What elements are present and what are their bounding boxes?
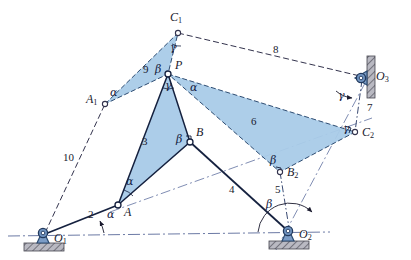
node-label-B: B <box>196 126 203 138</box>
node-label-A1: A1 <box>86 93 97 107</box>
link-8-line <box>178 33 360 76</box>
joint-A[interactable] <box>115 202 121 208</box>
node-label-A: A <box>124 206 131 218</box>
angle-beta-at-O2: β <box>266 199 272 210</box>
node-label-B2: B2 <box>287 166 298 180</box>
link-label-10: 10 <box>63 152 74 163</box>
angle-gamma-at-C1: γ <box>170 42 177 53</box>
joint-A1[interactable] <box>102 101 107 106</box>
wall-pivot-O3[interactable] <box>355 56 375 98</box>
link-label-2: 2 <box>88 209 94 220</box>
link-label-7: 7 <box>367 102 373 113</box>
link-label-9: 9 <box>143 64 149 75</box>
node-label-P: P <box>175 59 182 71</box>
angle-alpha-at-P-6: α <box>190 82 197 93</box>
angle-alpha-at-A: α <box>126 176 133 187</box>
angle-gamma-at-O3: γ <box>338 90 345 101</box>
node-label-C2: C2 <box>362 126 374 140</box>
angle-arc-O1 <box>100 221 104 233</box>
link-label-8: 8 <box>273 44 279 55</box>
node-label-O1: O1 <box>54 232 67 246</box>
angle-alpha-at-O1: α <box>107 209 114 220</box>
node-label-O2: O2 <box>299 228 312 242</box>
angle-beta-at-B: β <box>176 134 182 145</box>
joint-P[interactable] <box>165 71 171 77</box>
node-label-O3: O3 <box>376 70 389 84</box>
joint-C1[interactable] <box>175 30 180 35</box>
link-label-3: 3 <box>142 136 148 147</box>
angle-gamma-at-C2: γ <box>343 123 350 134</box>
angle-beta-at-P-9: β <box>155 64 161 75</box>
joint-C2[interactable] <box>352 129 357 134</box>
node-label-C1: C1 <box>170 11 182 25</box>
link-label-6: 6 <box>251 116 257 127</box>
link-label-4: 4 <box>229 184 235 195</box>
link-7-line <box>355 80 362 132</box>
joint-B2[interactable] <box>277 169 282 174</box>
link-label-5: 5 <box>275 184 281 195</box>
angle-alpha-at-A1: α <box>110 87 117 98</box>
angle-gamma-at-P: γ <box>165 80 172 91</box>
joint-B[interactable] <box>187 139 193 145</box>
angle-beta-at-B2: β <box>270 155 276 166</box>
